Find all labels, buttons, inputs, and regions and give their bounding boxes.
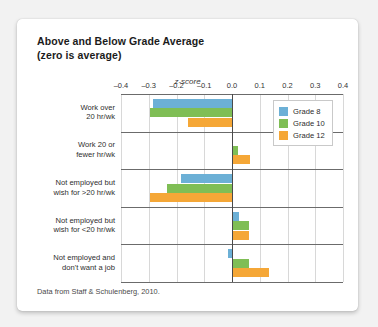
bar [150,193,232,202]
x-tick-label: 0.0 [227,81,237,90]
category-label: Work 20 orfewer hr/wk [76,141,115,160]
legend-swatch-icon-grade-10 [279,119,288,128]
category-label-line: Not employed but [54,216,115,226]
category-label-line: Not employed and [53,254,115,264]
bar [181,174,232,183]
x-tick-label: 0.3 [310,81,320,90]
source-note: Data from Staff & Schulenberg, 2010. [37,287,160,296]
legend-label-grade-8: Grade 8 [293,107,320,116]
x-tick-label: –0.3 [141,81,156,90]
chart-title-line-1: Above and Below Grade Average [37,35,204,49]
gridline-horizontal [121,282,343,283]
bar [150,108,232,117]
x-tick-label: –0.2 [169,81,184,90]
x-tick-label: 0.2 [282,81,292,90]
screenshot-root: Above and Below Grade Average (zero is a… [0,0,378,327]
legend-item-grade-12: Grade 12 [279,129,325,141]
bar [232,155,250,164]
gridline-vertical [149,94,150,282]
x-axis-title: z-score [17,77,358,86]
legend: Grade 8 Grade 10 Grade 12 [273,100,333,146]
legend-label-grade-12: Grade 12 [293,131,325,140]
legend-label-grade-10: Grade 10 [293,119,325,128]
category-label-line: wish for <20 hr/wk [54,226,115,236]
legend-item-grade-8: Grade 8 [279,105,325,117]
bar [167,184,232,193]
category-label: Work over20 hr/wk [81,103,115,122]
category-label-line: 20 hr/wk [81,113,115,123]
bar [232,259,249,268]
zero-axis-line [232,94,233,282]
category-label-line: Work 20 or [76,141,115,151]
legend-item-grade-10: Grade 10 [279,117,325,129]
bar [232,212,239,221]
gridline-vertical [121,94,122,282]
x-tick-label: –0.4 [114,81,129,90]
chart-card: Above and Below Grade Average (zero is a… [17,19,358,311]
category-label: Not employed butwish for <20 hr/wk [54,216,115,235]
category-label-line: Not employed but [54,178,115,188]
category-label-line: don't want a job [53,263,115,273]
category-label-line: wish for >20 hr/wk [54,188,115,198]
x-tick-label: 0.1 [255,81,265,90]
chart-title-line-2: (zero is average) [37,49,204,63]
bar [232,231,249,240]
x-tick-label: –0.1 [197,81,212,90]
category-label-line: Work over [81,103,115,113]
category-label: Not employed anddon't want a job [53,254,115,273]
bar [153,99,232,108]
x-tick-label: 0.4 [338,81,348,90]
category-label-line: fewer hr/wk [76,150,115,160]
bar [232,268,269,277]
bar [232,221,249,230]
gridline-vertical [260,94,261,282]
chart-title: Above and Below Grade Average (zero is a… [37,35,204,62]
plot-area: –0.4–0.3–0.2–0.10.00.10.20.30.4 Work ove… [121,94,343,282]
category-label: Not employed butwish for >20 hr/wk [54,178,115,197]
gridline-vertical [343,94,344,282]
legend-swatch-icon-grade-12 [279,131,288,140]
legend-swatch-icon-grade-8 [279,107,288,116]
bar [188,118,232,127]
